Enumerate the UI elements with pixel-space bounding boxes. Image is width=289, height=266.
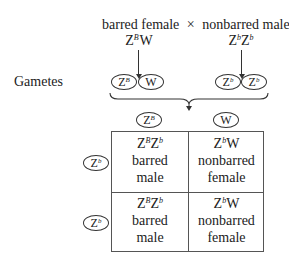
col-header-w: W bbox=[213, 112, 239, 128]
brace-icon bbox=[108, 92, 270, 112]
gametes-label: Gametes bbox=[14, 74, 63, 90]
row-header-zb-2: Zb bbox=[83, 215, 109, 231]
cell-r2-c2: ZbW nonbarred female bbox=[189, 195, 264, 246]
cross-symbol: × bbox=[187, 17, 195, 32]
gamete-female-w: W bbox=[138, 74, 164, 90]
female-arrow-line bbox=[138, 50, 139, 75]
female-genotype: ZBW bbox=[125, 33, 153, 49]
cell-r2-c1: ZBZb barred male bbox=[112, 195, 188, 246]
row-header-zb-1: Zb bbox=[83, 155, 109, 171]
female-label: barred female bbox=[102, 17, 179, 32]
cell-r1-c1: ZBZb barred male bbox=[112, 135, 188, 186]
punnett-square: ZBZb barred male ZbW nonbarred female ZB… bbox=[111, 131, 264, 252]
male-genotype: ZbZb bbox=[228, 33, 253, 49]
grid-divider-horizontal bbox=[112, 192, 263, 193]
male-arrow-line bbox=[241, 50, 242, 75]
gamete-male-zb-1: Zb bbox=[215, 74, 241, 90]
cross-header: barred female × nonbarred male bbox=[102, 17, 289, 33]
gamete-male-zb-2: Zb bbox=[241, 74, 267, 90]
male-label: nonbarred male bbox=[202, 17, 289, 32]
col-header-zb: ZB bbox=[136, 112, 162, 128]
cell-r1-c2: ZbW nonbarred female bbox=[189, 135, 264, 186]
gamete-female-zb: ZB bbox=[111, 74, 137, 90]
